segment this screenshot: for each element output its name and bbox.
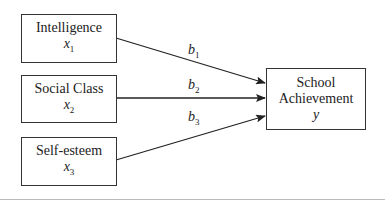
coefficient-b1: b1: [188, 42, 200, 60]
predictor-box-social-class: Social Class x2: [21, 75, 117, 123]
predictor-box-intelligence: Intelligence x1: [21, 14, 117, 63]
outcome-variable: y: [313, 107, 319, 123]
outcome-label-line1: School: [297, 75, 336, 91]
predictor-variable: x1: [64, 36, 75, 57]
outcome-label-line2: Achievement: [279, 91, 354, 107]
predictor-label: Self-esteem: [36, 143, 102, 159]
outcome-box-school-achievement: School Achievement y: [266, 68, 366, 130]
predictor-variable: x2: [64, 97, 75, 118]
predictor-variable: x3: [64, 159, 75, 180]
predictor-label: Social Class: [35, 81, 104, 97]
coefficient-b3: b3: [188, 109, 200, 127]
bottom-divider: [0, 199, 385, 200]
coefficient-b2: b2: [188, 77, 200, 95]
predictor-box-self-esteem: Self-esteem x3: [21, 137, 117, 186]
predictor-label: Intelligence: [36, 20, 102, 36]
